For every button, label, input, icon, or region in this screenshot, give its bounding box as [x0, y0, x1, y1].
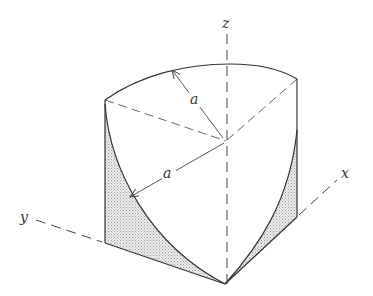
- left-shaded-region: [105, 104, 222, 283]
- z-axis-label: z: [221, 15, 230, 31]
- right-shaded-region: [228, 130, 297, 282]
- lower-radius-arrow: [130, 143, 224, 197]
- upper-radius-label: a: [190, 91, 198, 107]
- x-axis: [299, 180, 337, 215]
- lower-radius-label: a: [163, 165, 171, 181]
- x-axis-label: x: [341, 165, 349, 181]
- hidden-edges: [105, 79, 297, 141]
- y-axis: [36, 220, 102, 242]
- steinmetz-octant-diagram: a a z x y: [0, 0, 373, 296]
- y-axis-label: y: [19, 209, 29, 225]
